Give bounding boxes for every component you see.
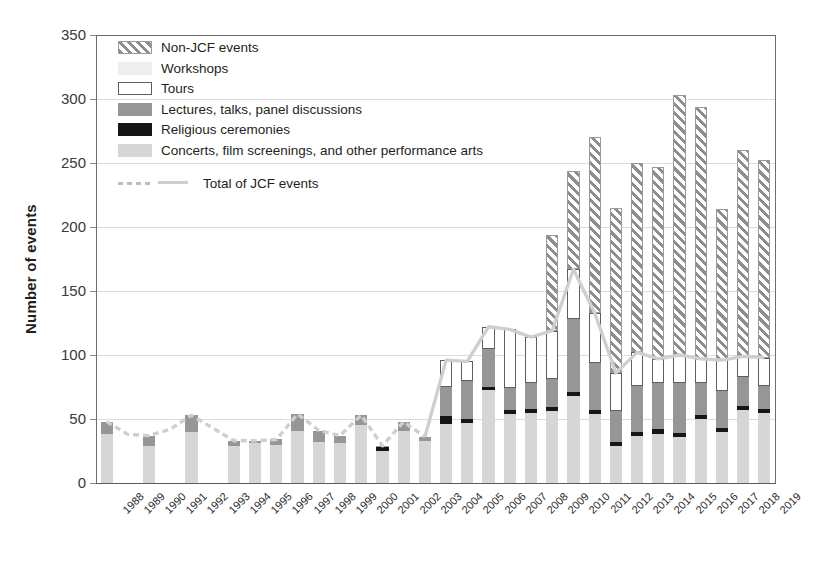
legend-swatch-icon <box>118 82 152 95</box>
legend-swatch-icon <box>118 41 152 54</box>
total-line-dashed <box>107 414 425 446</box>
chart-container: Number of events 050100150200250300350 1… <box>0 0 817 564</box>
plot-border-right <box>775 35 776 484</box>
legend-swatch-icon <box>118 144 152 157</box>
x-axis-line <box>96 483 776 484</box>
legend-item-label: Lectures, talks, panel discussions <box>161 102 362 117</box>
legend-item[interactable]: Religious ceremonies <box>118 122 290 137</box>
legend-swatch-icon <box>118 123 152 136</box>
legend-item[interactable]: Non-JCF events <box>118 40 259 55</box>
legend-item[interactable]: Lectures, talks, panel discussions <box>118 102 362 117</box>
legend-swatch-icon <box>118 62 152 75</box>
plot-border-top <box>96 35 776 36</box>
legend-item-label: Tours <box>161 81 194 96</box>
legend-item[interactable]: Workshops <box>118 61 228 76</box>
legend-item-label: Concerts, film screenings, and other per… <box>161 143 483 158</box>
plot-border-left <box>96 35 97 484</box>
legend-item[interactable]: Concerts, film screenings, and other per… <box>118 143 483 158</box>
legend-solid-line-icon <box>158 181 188 184</box>
legend-item-label: Workshops <box>161 61 228 76</box>
legend-swatch-icon <box>118 103 152 116</box>
legend-item-label: Non-JCF events <box>161 40 259 55</box>
legend-dashed-line-icon <box>118 177 152 190</box>
legend-item-total-line[interactable]: Total of JCF events <box>118 176 319 191</box>
legend-total-line-label: Total of JCF events <box>203 176 319 191</box>
legend-item-label: Religious ceremonies <box>161 122 290 137</box>
legend-item[interactable]: Tours <box>118 81 194 96</box>
total-line-solid <box>425 269 765 437</box>
